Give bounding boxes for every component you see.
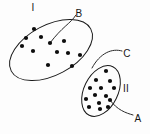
data-point (106, 105, 110, 109)
data-point (55, 50, 59, 54)
data-point (84, 97, 88, 101)
diagram-canvas: I B C II A (0, 0, 150, 134)
cluster-one-points (20, 27, 82, 68)
cluster-two-ellipse (74, 59, 128, 122)
data-point (88, 86, 92, 90)
data-point (46, 63, 50, 67)
callout-label-a: A (135, 113, 142, 124)
data-point (20, 44, 24, 48)
data-point (48, 41, 52, 45)
data-point (32, 27, 36, 31)
data-point (99, 86, 103, 90)
cluster-two-label: II (123, 83, 129, 94)
data-point (24, 36, 28, 40)
cluster-two-points (84, 69, 116, 111)
data-point (112, 86, 116, 90)
data-point (108, 98, 112, 102)
data-point (87, 105, 91, 109)
data-point (98, 107, 102, 111)
data-point (94, 78, 98, 82)
callout-label-c: C (123, 48, 131, 59)
data-point (70, 64, 74, 68)
data-point (62, 39, 66, 43)
data-point (78, 53, 82, 57)
data-point (97, 101, 101, 105)
data-point (104, 94, 108, 98)
data-point (108, 79, 112, 83)
cluster-diagram: I B C II A (0, 0, 150, 134)
data-point (93, 93, 97, 97)
leader-line-a (110, 100, 133, 115)
data-point (31, 49, 35, 53)
callout-label-b: B (76, 8, 83, 19)
data-point (39, 35, 43, 39)
cluster-one-label: I (31, 2, 34, 13)
leader-line-b (50, 15, 76, 43)
data-point (66, 51, 70, 55)
data-point (104, 69, 108, 73)
